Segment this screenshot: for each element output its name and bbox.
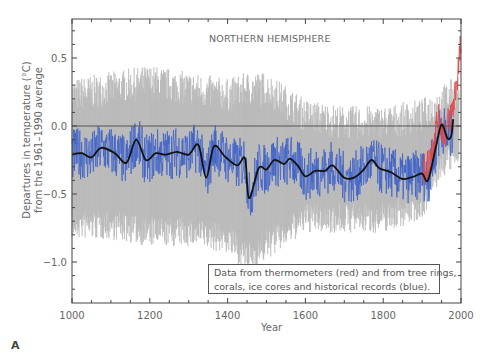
y-tick-label: 0.5 (51, 53, 67, 64)
x-axis-label: Year (261, 322, 282, 333)
y-axis-label-line-1: Departures in temperature (°C) (21, 45, 33, 235)
y-tick-label: −1.0 (43, 257, 67, 268)
annotation-line-2: corals, ice cores and historical records… (214, 280, 434, 294)
annotation-box: Data from thermometers (red) and from tr… (208, 264, 440, 294)
y-axis-label: Departures in temperature (°C) from the … (21, 45, 45, 235)
y-tick-label: −0.5 (43, 189, 67, 200)
x-tick-label: 1400 (215, 310, 240, 321)
x-tick-label: 1600 (293, 310, 318, 321)
x-tick-label: 1000 (59, 310, 84, 321)
chart-title: NORTHERN HEMISPHERE (209, 33, 331, 44)
y-axis-label-line-2: from the 1961–1990 average (33, 45, 45, 235)
y-tick-label: 0.0 (51, 121, 67, 132)
temperature-chart: 1000120014001600180020000.50.0−0.5−1.0 (0, 0, 491, 356)
x-tick-label: 1800 (370, 310, 395, 321)
panel-label: A (11, 339, 20, 352)
x-tick-label: 2000 (448, 310, 473, 321)
annotation-line-1: Data from thermometers (red) and from tr… (214, 266, 434, 280)
x-tick-label: 1200 (137, 310, 162, 321)
